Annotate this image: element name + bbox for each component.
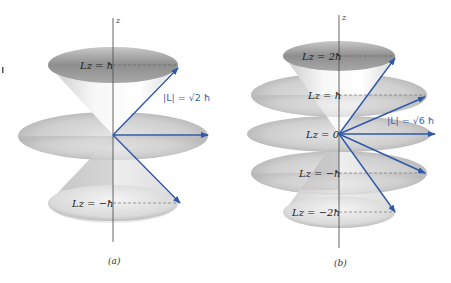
level-label-m-2: Lz = −2ħ xyxy=(291,207,340,218)
level-label-m-1: Lz = −ħ xyxy=(298,168,340,179)
level-label-m0: Lz = 0 xyxy=(305,129,340,140)
caption-a: (a) xyxy=(108,256,121,266)
edge-mark xyxy=(2,67,4,73)
level-label-m1: Lz = ħ xyxy=(307,90,341,101)
caption-b: (b) xyxy=(334,258,347,268)
z-axis-label: z xyxy=(115,16,121,25)
z-axis-label: z xyxy=(341,13,347,22)
figure-a: z Lz = ħ Lz = −ħ |L| = √2 ħ (a) xyxy=(18,16,210,266)
magnitude-label: |L| = √6 ħ xyxy=(387,115,434,126)
angular-momentum-figure: z Lz = ħ Lz = −ħ |L| = √2 ħ (a) z xyxy=(0,0,451,283)
level-label-m2: Lz = 2ħ xyxy=(301,51,341,62)
level-label-m-1: Lz = −ħ xyxy=(71,198,113,209)
level-label-m1: Lz = ħ xyxy=(79,60,113,71)
magnitude-label: |L| = √2 ħ xyxy=(163,92,210,103)
figure-b: z Lz = 2ħ Lz = ħ Lz = 0 Lz = −ħ Lz = −2ħ… xyxy=(247,13,435,268)
